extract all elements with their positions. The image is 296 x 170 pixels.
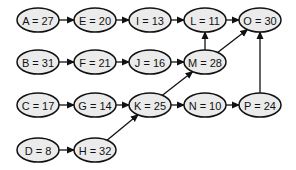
node-label: F = 21 <box>79 57 111 69</box>
node-e: E = 20 <box>74 8 116 32</box>
node-label: C = 17 <box>22 100 55 112</box>
node-g: G = 14 <box>74 93 116 117</box>
node-label: J = 16 <box>135 57 165 69</box>
node-label: P = 24 <box>244 100 276 112</box>
edge-h-to-k <box>107 115 138 140</box>
node-c: C = 17 <box>17 93 59 117</box>
node-label: K = 25 <box>134 100 166 112</box>
node-d: D = 8 <box>17 138 59 162</box>
node-k: K = 25 <box>129 93 171 117</box>
network-diagram: A = 27E = 20I = 13L = 11O = 30B = 31F = … <box>0 0 296 170</box>
node-l: L = 11 <box>184 8 226 32</box>
node-label: B = 31 <box>22 57 54 69</box>
node-a: A = 27 <box>17 8 59 32</box>
node-j: J = 16 <box>129 50 171 74</box>
edge-k-to-m <box>162 72 192 96</box>
node-o: O = 30 <box>239 8 281 32</box>
node-m: M = 28 <box>184 50 226 74</box>
node-label: D = 8 <box>25 145 52 157</box>
node-label: O = 30 <box>243 15 276 27</box>
node-label: L = 11 <box>190 15 220 27</box>
node-label: G = 14 <box>78 100 111 112</box>
node-n: N = 10 <box>184 93 226 117</box>
node-p: P = 24 <box>239 93 281 117</box>
node-label: M = 28 <box>188 57 222 69</box>
node-f: F = 21 <box>74 50 116 74</box>
node-i: I = 13 <box>129 8 171 32</box>
edge-m-to-o <box>218 30 248 53</box>
node-label: I = 13 <box>136 15 164 27</box>
node-label: N = 10 <box>189 100 222 112</box>
node-b: B = 31 <box>17 50 59 74</box>
node-label: E = 20 <box>79 15 111 27</box>
node-h: H = 32 <box>74 138 116 162</box>
node-label: A = 27 <box>22 15 54 27</box>
edges <box>59 20 260 150</box>
nodes: A = 27E = 20I = 13L = 11O = 30B = 31F = … <box>17 8 281 162</box>
node-label: H = 32 <box>79 145 112 157</box>
